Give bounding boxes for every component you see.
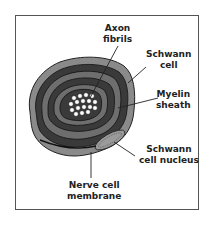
label-line: Nerve cell	[67, 180, 121, 191]
label-myelin-sheath: Myelin sheath	[156, 89, 191, 110]
label-line: membrane	[67, 191, 121, 202]
label-line: fibrils	[103, 34, 132, 45]
label-line: Axon	[103, 23, 132, 34]
label-line: cell	[146, 60, 191, 71]
label-line: cell nucleus	[139, 155, 199, 166]
label-schwann-cell-nucleus: Schwann cell nucleus	[139, 144, 199, 165]
label-line: Myelin	[156, 89, 191, 100]
label-nerve-cell-membrane: Nerve cell membrane	[67, 180, 121, 201]
label-schwann-cell: Schwann cell	[146, 49, 191, 70]
label-line: sheath	[156, 100, 191, 111]
label-axon-fibrils: Axon fibrils	[103, 23, 132, 44]
label-line: Schwann	[139, 144, 199, 155]
label-line: Schwann	[146, 49, 191, 60]
